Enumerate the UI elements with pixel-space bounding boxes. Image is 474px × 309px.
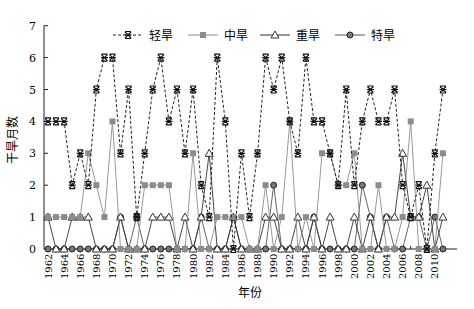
square-marker	[61, 214, 67, 220]
square-marker	[319, 150, 325, 156]
star-marker	[222, 118, 229, 125]
square-marker	[279, 214, 285, 220]
square-marker	[206, 246, 212, 252]
star-marker	[415, 182, 422, 189]
star-marker	[391, 86, 398, 93]
star-marker	[165, 118, 172, 125]
square-marker	[271, 246, 277, 252]
y-tick-label: 2	[29, 179, 36, 192]
legend-item: 特旱	[335, 28, 395, 43]
circle-marker	[351, 246, 357, 252]
square-marker	[69, 214, 75, 220]
circle-marker	[263, 246, 269, 252]
square-marker	[343, 182, 349, 188]
x-tick-label: 2006	[397, 254, 408, 279]
x-tick-label: 2004	[381, 254, 392, 279]
star-marker	[77, 150, 84, 157]
square-marker	[158, 182, 164, 188]
square-marker	[45, 214, 51, 220]
x-tick-label: 1980	[188, 254, 199, 279]
star-marker	[45, 118, 52, 125]
star-marker	[367, 86, 374, 93]
legend-item: 重旱	[260, 29, 320, 43]
triangle-marker	[165, 213, 173, 220]
circle-marker	[85, 246, 91, 252]
square-marker	[200, 32, 206, 38]
triangle-marker	[423, 181, 431, 188]
x-tick-label: 1986	[236, 254, 247, 279]
x-tick-label: 1976	[155, 254, 166, 279]
x-tick-label: 1990	[268, 254, 279, 279]
circle-marker	[69, 246, 75, 252]
star-marker	[399, 182, 406, 189]
star-marker	[214, 54, 221, 61]
star-marker	[383, 118, 390, 125]
star-marker	[278, 54, 285, 61]
circle-marker	[77, 246, 83, 252]
y-tick-label: 5	[29, 84, 36, 97]
square-marker	[400, 214, 406, 220]
star-marker	[319, 118, 326, 125]
square-marker	[53, 214, 59, 220]
x-tick-label: 2002	[365, 254, 376, 279]
triangle-marker	[326, 213, 334, 220]
legend: 轻旱中旱重旱特旱	[113, 28, 395, 43]
triangle-marker	[149, 213, 157, 220]
triangle-marker	[439, 213, 447, 220]
star-marker	[61, 118, 68, 125]
x-tick-label: 2000	[349, 254, 360, 279]
x-tick-label: 1964	[59, 254, 70, 279]
x-tick-label: 1972	[123, 254, 134, 279]
square-marker	[367, 246, 373, 252]
square-marker	[134, 246, 140, 252]
x-tick-label: 1998	[333, 254, 344, 279]
x-tick-label: 1982	[204, 254, 215, 279]
star-marker	[53, 118, 60, 125]
y-tick-label: 3	[29, 147, 36, 160]
square-marker	[182, 246, 188, 252]
triangle-marker	[262, 213, 270, 220]
star-marker	[141, 150, 148, 157]
square-marker	[150, 182, 156, 188]
square-marker	[93, 182, 99, 188]
star-marker	[101, 54, 108, 61]
circle-marker	[45, 246, 51, 252]
x-tick-label: 1970	[107, 254, 118, 279]
circle-marker	[400, 246, 406, 252]
y-tick-label: 1	[29, 211, 36, 224]
circle-marker	[359, 182, 365, 188]
x-tick-label: 1966	[75, 254, 86, 279]
square-marker	[118, 246, 124, 252]
square-marker	[190, 150, 196, 156]
triangle-marker	[270, 213, 278, 220]
legend-label: 轻旱	[149, 29, 173, 43]
x-tick-label: 2008	[413, 254, 424, 279]
x-tick-label: 1978	[171, 254, 182, 279]
series-3	[44, 149, 447, 252]
y-axis-label: 干旱月数	[5, 116, 20, 164]
y-tick-label: 6	[29, 52, 36, 65]
x-tick-label: 2010	[429, 254, 440, 279]
star-marker	[85, 182, 92, 189]
triangle-marker	[391, 213, 399, 220]
x-tick-label: 1974	[139, 254, 150, 279]
x-tick-label: 1996	[317, 254, 328, 279]
star-marker	[439, 86, 446, 93]
y-tick-label: 7	[29, 20, 36, 33]
x-tick-label: 1984	[220, 254, 231, 279]
square-marker	[311, 246, 317, 252]
legend-label: 中旱	[224, 28, 248, 43]
square-marker	[174, 246, 180, 252]
square-marker	[142, 182, 148, 188]
square-marker	[109, 118, 115, 124]
square-marker	[198, 246, 204, 252]
x-tick-label: 1994	[300, 254, 311, 279]
x-axis-label: 年份	[238, 286, 262, 300]
circle-marker	[271, 182, 277, 188]
triangle-marker	[294, 213, 302, 220]
circle-marker	[158, 246, 164, 252]
triangle-marker	[157, 213, 165, 220]
square-marker	[408, 118, 414, 124]
series-1	[45, 54, 447, 252]
circle-marker	[166, 246, 172, 252]
